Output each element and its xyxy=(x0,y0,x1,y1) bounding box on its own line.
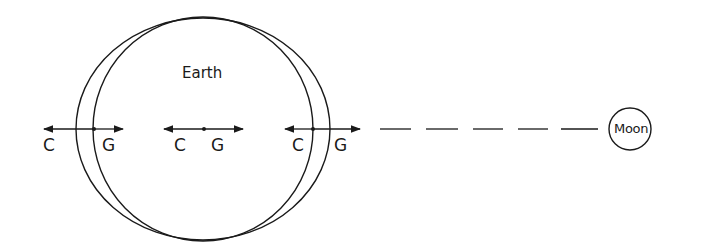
tidal-diagram: Earth C G C G C G Moon xyxy=(0,0,704,248)
earth-label: Earth xyxy=(182,66,222,81)
moon-label: Moon xyxy=(614,122,648,135)
far-side-force-arrows xyxy=(44,127,123,131)
far-side-c-label: C xyxy=(43,137,55,154)
center-force-arrows xyxy=(164,127,243,131)
near-side-force-arrows xyxy=(285,127,360,131)
center-g-label: G xyxy=(211,137,224,154)
near-side-g-label: G xyxy=(334,137,347,154)
near-side-c-label: C xyxy=(292,137,304,154)
diagram-graphics xyxy=(0,0,704,248)
center-c-label: C xyxy=(174,137,186,154)
far-side-g-label: G xyxy=(102,137,115,154)
